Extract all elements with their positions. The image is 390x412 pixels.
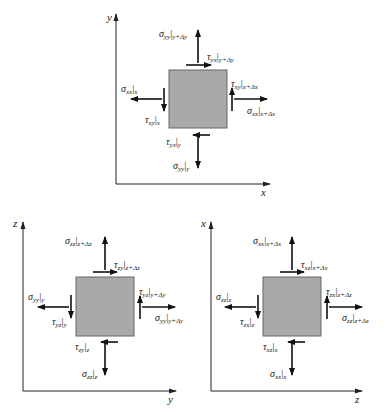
label-right-normal: σyy|y+Δy bbox=[155, 312, 184, 325]
label-right-normal: σzz|z+Δz bbox=[342, 312, 369, 325]
label-left-normal: σxx|x bbox=[121, 83, 138, 96]
label-left-shear: τyz|y bbox=[52, 316, 67, 329]
vertical-axis-label: x bbox=[200, 217, 206, 229]
label-bottom-normal: σyy|y bbox=[173, 160, 190, 173]
label-left-normal: σzz|z bbox=[216, 291, 231, 304]
vertical-axis-label: y bbox=[106, 11, 112, 23]
fluid-element bbox=[263, 277, 321, 336]
fluid-element bbox=[169, 70, 227, 128]
fluid-element bbox=[76, 277, 134, 336]
label-right-shear: τzx|z+Δz bbox=[326, 286, 352, 299]
label-bottom-shear: τyx|y bbox=[166, 136, 182, 149]
label-bottom-normal: σzz|z bbox=[82, 368, 97, 381]
horizontal-axis-label: z bbox=[354, 393, 360, 405]
label-right-shear: τxy|x+Δx bbox=[231, 78, 259, 91]
label-top-shear: τzy|z+Δz bbox=[114, 259, 140, 272]
label-right-normal: σxx|x+Δx bbox=[247, 105, 276, 118]
label-bottom-shear: τxz|x bbox=[263, 341, 278, 354]
label-bottom-shear: τzy|z bbox=[75, 341, 89, 354]
panel-yz: z y σzz|z+Δz τzy|z+Δz σyy|y τyz|y τyz|y+… bbox=[12, 217, 184, 405]
panel-xy: y x σyy|y+Δy τyx|y+Δy σxx|x τxy|x τxy|x+… bbox=[106, 11, 276, 198]
label-top-shear: τxz|x+Δx bbox=[301, 259, 328, 272]
vertical-axis-label: z bbox=[12, 217, 18, 229]
label-left-shear: τxy|x bbox=[145, 114, 161, 127]
panel-zx: x z σxx|x+Δx τxz|x+Δx σzz|z τzx|z τzx|z+… bbox=[200, 217, 369, 405]
stress-element-diagrams: y x σyy|y+Δy τyx|y+Δy σxx|x τxy|x τxy|x+… bbox=[0, 0, 390, 412]
label-bottom-normal: σxx|x bbox=[270, 368, 287, 381]
label-left-normal: σyy|y bbox=[28, 291, 45, 304]
label-right-shear: τyz|y+Δy bbox=[139, 286, 166, 299]
horizontal-axis-label: y bbox=[167, 393, 173, 405]
label-top-shear: τyx|y+Δy bbox=[207, 51, 235, 64]
horizontal-axis-label: x bbox=[260, 186, 266, 198]
label-top-normal: σxx|x+Δx bbox=[253, 235, 282, 248]
label-top-normal: σzz|z+Δz bbox=[65, 235, 92, 248]
label-left-shear: τzx|z bbox=[240, 316, 254, 329]
label-top-normal: σyy|y+Δy bbox=[159, 28, 188, 41]
